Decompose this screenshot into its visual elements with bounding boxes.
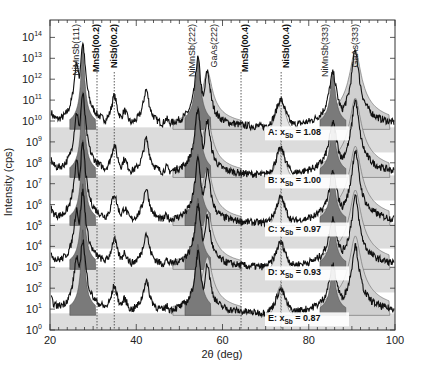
y-tick-label: 1012	[22, 72, 42, 85]
y-tick-label: 106	[26, 198, 42, 211]
xrd-chart: A: xSb = 1.08B: xSb = 1.00C: xSb = 0.97D…	[0, 0, 434, 368]
y-tick-label: 101	[26, 302, 42, 315]
y-tick-label: 100	[26, 323, 42, 336]
x-tick-label: 100	[386, 334, 404, 346]
x-tick-label: 40	[130, 334, 142, 346]
y-tick-label: 1010	[22, 114, 42, 127]
annotation-nimnsb333: NiMnSb(333)	[320, 24, 330, 77]
annotation-nisb004: NiSb(00.4)	[281, 24, 291, 68]
y-tick-label: 1013	[22, 51, 42, 64]
y-tick-label: 108	[26, 156, 42, 169]
y-tick-label: 107	[26, 177, 42, 190]
x-axis-label: 2θ (deg)	[202, 348, 243, 360]
y-tick-label: 109	[26, 135, 42, 148]
annotation-nimnsb222: NiMnSb(222)	[187, 24, 197, 77]
y-tick-label: 102	[26, 281, 42, 294]
y-tick-label: 104	[26, 239, 42, 252]
y-tick-label: 103	[26, 260, 42, 273]
annotation-gaas222: GaAs(222)	[209, 24, 219, 68]
annotation-mnsb004: MnSb(00.4)	[240, 24, 250, 72]
annotation-nimnsb111: NiMnSb(111)	[71, 24, 81, 76]
peak-annotations: NiMnSb(111)MnSb(00.2)NiSb(00.2)NiMnSb(22…	[71, 24, 359, 77]
y-tick-label: 1011	[22, 93, 42, 106]
x-tick-label: 20	[44, 334, 56, 346]
annotation-nisb002: NiSb(00.2)	[109, 24, 119, 68]
y-tick-label: 1014	[22, 30, 42, 43]
x-tick-label: 60	[216, 334, 228, 346]
y-tick-label: 105	[26, 219, 42, 232]
y-axis-label: Intensity (cps)	[2, 148, 14, 216]
annotation-mnsb002: MnSb(00.2)	[91, 24, 101, 72]
annotation-gaas333: GaAs(333)	[350, 24, 360, 68]
x-tick-label: 80	[303, 334, 315, 346]
